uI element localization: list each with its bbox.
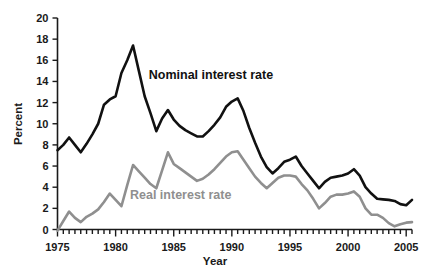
y-tick-label: 18	[36, 33, 48, 45]
y-tick-label: 16	[36, 54, 48, 66]
y-axis-title: Percent	[12, 103, 24, 145]
chart-canvas: 02468101214161820 1975198019851990199520…	[0, 0, 427, 275]
x-tick-label: 1980	[103, 241, 127, 253]
y-tick-label: 12	[36, 97, 48, 109]
y-tick-label: 14	[36, 75, 49, 87]
y-tick-label: 4	[42, 181, 49, 193]
x-tick-label: 1985	[161, 241, 185, 253]
y-tick-label: 2	[42, 202, 48, 214]
x-tick-label: 2000	[336, 241, 360, 253]
interest-rate-chart: 02468101214161820 1975198019851990199520…	[0, 0, 427, 275]
x-tick-label: 1995	[278, 241, 302, 253]
x-tick-label: 2005	[394, 241, 418, 253]
y-tick-label: 20	[36, 12, 48, 24]
y-tick-label: 0	[42, 224, 48, 236]
x-tick-label: 1975	[45, 241, 69, 253]
y-tick-label: 8	[42, 139, 48, 151]
real-interest-rate-label: Real interest rate	[130, 188, 231, 202]
chart-background	[0, 0, 427, 275]
x-tick-label: 1990	[220, 241, 244, 253]
x-axis-title: Year	[203, 255, 228, 267]
y-tick-label: 6	[42, 160, 48, 172]
nominal-interest-rate-label: Nominal interest rate	[149, 68, 273, 82]
y-tick-label: 10	[36, 118, 48, 130]
